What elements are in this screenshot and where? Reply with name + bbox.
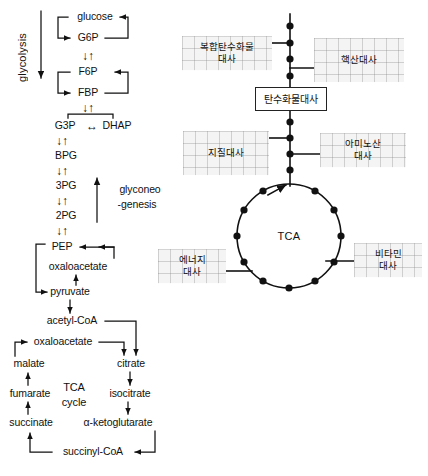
reversible-arrows-3pg-2pg: ↓↑	[56, 195, 68, 207]
label-complex-carbohydrate-metabolism: 복합탄수화물 대사	[182, 36, 272, 70]
metabolite-oxaloacetate-lower: oxaloacetate	[34, 336, 92, 347]
label-vitamin-metabolism: 비타민 대사	[354, 243, 422, 277]
metabolite-succinate: succinate	[9, 417, 52, 428]
diagram-canvas: glycolysis glyconeo -genesis TCA cycle g…	[0, 0, 428, 476]
succinylcoa-to-succinate-arrow	[30, 433, 52, 452]
metabolite-succinyl-coa: succinyl-CoA	[63, 446, 123, 457]
label-lipid-metabolism: 지질대사	[183, 131, 269, 175]
metabolite-f6p: F6P	[79, 66, 98, 77]
reversible-arrows-fbp-triose: ↓↑	[82, 102, 94, 114]
tca-cycle-section-label-line2: cycle	[62, 397, 87, 409]
akg-to-succinylcoa-arrow	[135, 431, 155, 452]
label-line2: 대사	[165, 266, 219, 278]
label-line1: 아미노산	[327, 138, 399, 150]
metabolite-2pg: 2PG	[56, 210, 77, 221]
label-line2: 대사	[361, 260, 415, 272]
reversible-arrows-2pg-pep: ↓↑	[56, 225, 68, 237]
label-nucleic-acid-metabolism: 핵산대사	[314, 38, 404, 82]
tca-cycle-section-label-line1: TCA	[63, 382, 85, 394]
label-line2: 대사	[327, 150, 399, 162]
metabolite-dhap: DHAP	[103, 120, 132, 131]
fbp-to-f6p-bracket	[105, 72, 128, 93]
reversible-arrows-g3p-bpg: ↓↑	[56, 135, 68, 147]
metabolite-glucose: glucose	[77, 11, 113, 22]
bidirectional-arrow-g3p-dhap: ↔	[86, 120, 98, 132]
glucose-to-g6p-bracket	[58, 17, 70, 38]
metabolite-isocitrate: isocitrate	[109, 388, 150, 399]
label-line1: 핵산대사	[321, 54, 397, 66]
metabolite-alpha-ketoglutarate: α-ketoglutarate	[84, 417, 153, 428]
metabolite-malate: malate	[14, 358, 45, 369]
metabolite-oxaloacetate-upper: oxaloacetate	[49, 261, 107, 272]
oxaloacetate-to-citrate-arrow	[99, 342, 124, 355]
label-line2: 대사	[189, 53, 265, 65]
tca-circle-center-label: TCA	[278, 230, 301, 242]
gluconeogenesis-section-label-line1: glyconeo	[119, 184, 160, 195]
gluconeogenesis-section-label-line2: -genesis	[118, 199, 157, 210]
reversible-arrows-bpg-3pg: ↓↑	[56, 165, 68, 177]
metabolite-fbp: FBP	[78, 87, 98, 98]
malate-to-oxaloacetate-arrow	[15, 342, 27, 356]
metabolite-acetyl-coa: acetyl-CoA	[47, 315, 97, 326]
metabolite-fumarate: fumarate	[10, 388, 51, 399]
f6p-to-fbp-bracket	[58, 72, 70, 93]
label-line1: 복합탄수화물	[189, 41, 265, 53]
reversible-arrows-g6p-f6p: ↓↑	[82, 50, 94, 62]
label-line1: 비타민	[361, 248, 415, 260]
label-energy-metabolism: 에너지 대사	[158, 249, 226, 283]
metabolite-3pg: 3PG	[56, 180, 77, 191]
oxaloacetate-to-pep-link	[80, 247, 114, 258]
label-line1: 지질대사	[190, 147, 262, 159]
metabolite-pyruvate: pyruvate	[50, 286, 89, 297]
carbohydrate-metabolism-box: 탄수화물대사	[255, 87, 327, 111]
metabolite-g6p: G6P	[78, 32, 99, 43]
metabolite-g3p: G3P	[55, 120, 76, 131]
metabolite-pep: PEP	[52, 241, 73, 252]
pep-to-pyruvate-bracket	[36, 244, 47, 292]
metabolite-citrate: citrate	[117, 358, 145, 369]
acetylcoa-to-citrate-arrow	[105, 321, 136, 355]
glycolysis-section-label: glycolysis	[16, 12, 28, 82]
label-line1: 에너지	[165, 254, 219, 266]
label-amino-acid-metabolism: 아미노산 대사	[320, 133, 406, 167]
metabolite-bpg: BPG	[55, 150, 77, 161]
